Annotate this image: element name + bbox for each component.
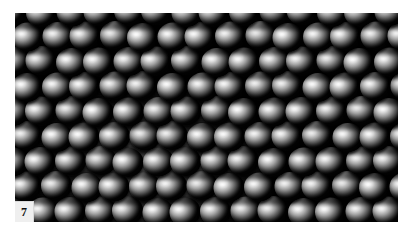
figure-root: 7 <box>0 0 413 235</box>
microsphere-particle <box>26 13 57 27</box>
microsphere-particle <box>140 13 173 26</box>
microsphere-particle <box>343 13 376 27</box>
microsphere-particle <box>258 148 289 177</box>
microsphere-particle <box>15 73 43 103</box>
microsphere-particle <box>286 13 318 25</box>
microsphere-particle <box>83 13 115 26</box>
microsphere-particle <box>157 73 188 102</box>
microsphere-particle <box>374 13 398 26</box>
sem-micrograph-image <box>15 13 398 222</box>
microsphere-particle <box>229 13 260 26</box>
figure-number-chip: 7 <box>15 201 34 222</box>
microsphere-particle <box>112 148 144 178</box>
microsphere-particle <box>373 98 398 128</box>
microsphere-lattice <box>15 13 398 222</box>
microsphere-particle <box>197 13 230 28</box>
microsphere-row <box>15 13 398 27</box>
microsphere-particle <box>272 23 304 53</box>
figure-number-label: 7 <box>21 206 27 218</box>
